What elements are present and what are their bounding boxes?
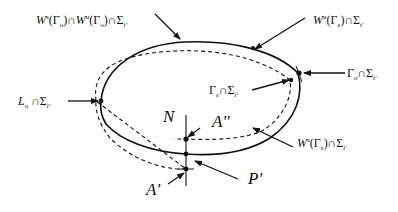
label-part: W <box>297 136 307 150</box>
label-part: (Γ <box>327 13 338 27</box>
diagram-canvas <box>0 0 398 212</box>
label-ws-wu-gamma-o: Ws(Γo)∩Wu(Γo)∩Σt' <box>36 14 127 26</box>
label-ws-gamma-eps: Ws(Γε)∩Σt' <box>297 137 347 149</box>
arrow-A-double-prime <box>188 128 200 137</box>
arrow-P-prime <box>195 161 238 179</box>
label-A-prime: A' <box>146 181 160 198</box>
label-sub: t' <box>47 102 50 110</box>
point-L-o <box>99 99 104 104</box>
label-part: (Γ <box>89 13 100 27</box>
label-part: (Γ <box>49 13 60 27</box>
label-wu-gamma-eps: Wu(Γε)∩Σt' <box>313 14 364 26</box>
label-part: ∩Σ <box>219 83 235 97</box>
label-A-double-prime: A'' <box>212 113 230 130</box>
label-N: N <box>163 108 174 125</box>
stable-manifold-curve <box>96 51 291 169</box>
unstable-manifold-curve <box>101 42 300 155</box>
label-part: ∩Σ <box>28 94 47 108</box>
label-gamma-o-sigma: Γo∩Σt' <box>347 67 377 79</box>
label-part: Γ <box>209 83 216 97</box>
arrow-top-left <box>155 14 180 39</box>
point-A-double-prime <box>183 136 188 141</box>
point-top-right <box>251 46 255 50</box>
label-sub: t' <box>360 21 363 29</box>
label-sub: t' <box>373 74 376 82</box>
label-P-prime: P' <box>248 170 262 187</box>
label-part: L <box>18 94 25 108</box>
label-part: W <box>76 13 86 27</box>
label-part: )∩ <box>63 13 76 27</box>
label-part: Γ <box>347 66 354 80</box>
label-part: )∩Σ <box>324 136 344 150</box>
label-part: )∩Σ <box>104 13 124 27</box>
label-part: (Γ <box>310 136 321 150</box>
label-part: W <box>313 13 323 27</box>
label-sub: t' <box>343 144 346 152</box>
label-part: ∩Σ <box>357 66 373 80</box>
arrow-top-right <box>255 18 305 49</box>
label-sub: t' <box>235 91 238 99</box>
arrow-A-prime <box>168 173 184 184</box>
label-part: )∩Σ <box>340 13 360 27</box>
arrow-inner-right <box>252 80 289 90</box>
point-P-prime <box>184 152 189 157</box>
label-L-o-sigma: Lo ∩Σt' <box>18 95 50 107</box>
label-part: W <box>36 13 46 27</box>
label-gamma-eps-sigma: Γε∩Σt' <box>209 84 238 96</box>
label-sub: t' <box>123 21 126 29</box>
point-gamma-eps <box>289 78 293 82</box>
